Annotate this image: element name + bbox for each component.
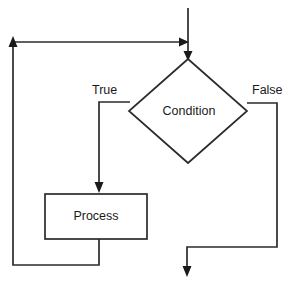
true-edge-line bbox=[99, 102, 130, 186]
flowchart-canvas: Condition Process True False bbox=[0, 0, 300, 286]
decision-node-label: Condition bbox=[163, 104, 216, 118]
flowchart-diagram: Condition Process True False bbox=[0, 0, 300, 286]
false-branch-label: False bbox=[252, 83, 283, 97]
true-edge-arrowhead-icon bbox=[95, 182, 104, 193]
decision-node-condition[interactable]: Condition bbox=[129, 59, 247, 163]
entry-edge bbox=[184, 8, 193, 61]
process-node-label: Process bbox=[73, 209, 118, 223]
true-edge bbox=[95, 102, 131, 193]
loopback-join-edge bbox=[13, 38, 189, 47]
process-node-process[interactable]: Process bbox=[45, 194, 147, 239]
false-edge-arrowhead-icon bbox=[183, 266, 192, 277]
true-branch-label: True bbox=[92, 83, 117, 97]
